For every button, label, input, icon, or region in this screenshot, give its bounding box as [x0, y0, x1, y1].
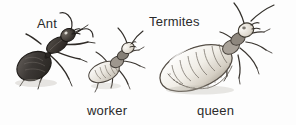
label-termites: Termites	[149, 15, 200, 28]
queen-termite-shadow	[166, 86, 234, 95]
worker-termite-shadow	[91, 83, 121, 89]
label-ant: Ant	[37, 17, 57, 30]
label-worker-caste: worker	[87, 104, 127, 117]
ant-shadow	[15, 79, 57, 87]
insect-comparison-figure: Ant Termites worker queen	[0, 0, 296, 125]
queen-termite-eye	[242, 27, 246, 30]
label-queen-caste: queen	[197, 104, 234, 117]
